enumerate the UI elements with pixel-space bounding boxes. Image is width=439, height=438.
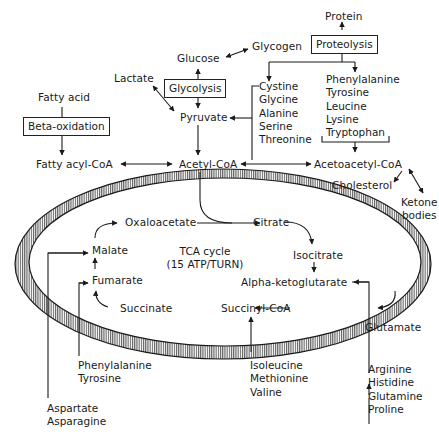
label-pyruvate: Pyruvate (180, 111, 228, 124)
label-glucose: Glucose (177, 52, 220, 65)
list-to-fumarate: Phenylalanine Tyrosine (78, 359, 152, 386)
label-acetyl-coa: Acetyl-CoA (179, 158, 237, 171)
label-ketone-bodies: Ketone bodies (401, 196, 437, 223)
label-glycogen: Glycogen (252, 40, 302, 53)
label-fatty-acid: Fatty acid (38, 91, 90, 104)
label-acetoacetyl-coa: Acetoacetyl-CoA (314, 158, 402, 171)
list-to-succinyl-coa: Isoleucine Methionine Valine (250, 359, 308, 399)
label-fumarate: Fumarate (92, 274, 143, 287)
box-beta-oxidation: Beta-oxidation (23, 117, 110, 136)
box-proteolysis: Proteolysis (311, 35, 378, 54)
label-glutamate: Glutamate (365, 321, 421, 334)
label-oxaloacetate: Oxaloacetate (125, 216, 196, 229)
label-isocitrate: Isocitrate (293, 249, 343, 262)
label-protein: Protein (325, 10, 363, 23)
list-to-glutamate: Arginine Histidine Glutamine Proline (368, 363, 423, 416)
label-lactate: Lactate (114, 72, 154, 85)
label-cholesterol: Cholesterol (332, 179, 392, 192)
label-succinyl-coa: Succinyl-CoA (221, 302, 291, 315)
label-succinate: Succinate (120, 302, 172, 315)
label-citrate: Citrate (253, 216, 289, 229)
list-amino-acids-to-pyruvate: Cystine Glycine Alanine Serine Threonine (259, 80, 312, 146)
label-fatty-acyl-coa: Fatty acyl-CoA (36, 158, 113, 171)
box-glycolysis: Glycolysis (164, 79, 226, 98)
list-to-malate: Aspartate Asparagine (47, 402, 106, 429)
label-alpha-ketoglutarate: Alpha-ketoglutarate (241, 276, 347, 289)
label-tca-cycle: TCA cycle (15 ATP/TURN) (165, 245, 245, 272)
list-amino-acids-to-acetoacetyl: Phenylalanine Tyrosine Leucine Lysine Tr… (326, 73, 400, 139)
label-malate: Malate (92, 244, 128, 257)
